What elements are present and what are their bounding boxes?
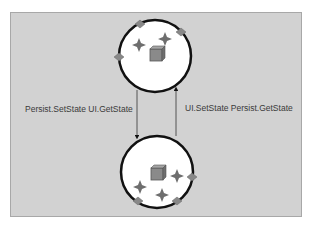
- left-arrow-label: Persist.SetState UI.GetState: [25, 104, 133, 114]
- cube-icon: [151, 165, 166, 180]
- cube-icon: [150, 46, 165, 61]
- bottom-node: [121, 136, 197, 208]
- right-arrow-label: UI.SetState Persist.GetState: [185, 103, 293, 113]
- top-node: [114, 20, 191, 92]
